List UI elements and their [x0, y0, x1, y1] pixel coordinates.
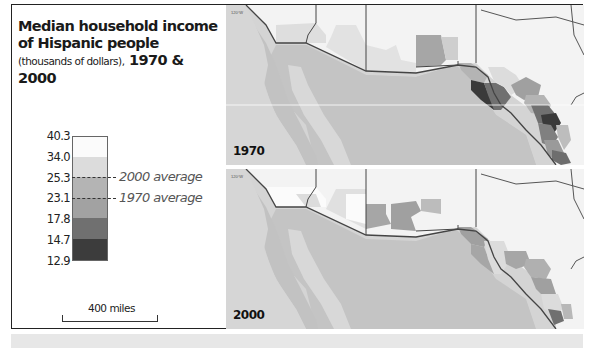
map-1970: 120°W 1970 — [226, 5, 584, 165]
map-1970-graphic: 120°W — [226, 5, 584, 165]
legend-panel: Median household income of Hispanic peop… — [12, 5, 226, 328]
legend-swatch-5 — [73, 218, 107, 239]
average-label-1970: 1970 average — [119, 190, 202, 205]
map-2000-graphic: 120°W — [226, 169, 584, 329]
legend-tick: 23.1 — [47, 191, 70, 205]
scale-bar — [62, 315, 158, 322]
legend-tick: 40.3 — [47, 129, 70, 143]
legend-swatch-3 — [73, 177, 107, 198]
legend-tick: 12.9 — [47, 254, 70, 268]
meridian-label: 120°W — [231, 174, 243, 179]
title-subtitle: (thousands of dollars), — [18, 55, 125, 67]
figure-title: Median household income of Hispanic peop… — [18, 18, 223, 87]
map-year-label: 2000 — [233, 308, 264, 322]
legend-tick: 14.7 — [47, 233, 70, 247]
average-line-1970 — [72, 198, 116, 199]
legend-swatch-6 — [73, 239, 107, 260]
meridian-label: 120°W — [231, 10, 243, 15]
legend-swatch-2 — [73, 157, 107, 177]
title-line-1: Median household income — [18, 18, 223, 35]
average-label-2000: 2000 average — [119, 169, 202, 184]
legend-tick: 17.8 — [47, 212, 70, 226]
title-line-2: of Hispanic people — [18, 35, 159, 51]
legend-swatch-4 — [73, 198, 107, 218]
average-line-2000 — [72, 177, 116, 178]
map-2000: 120°W 2000 — [226, 169, 584, 329]
bottom-band — [11, 334, 583, 348]
scale-bar-label: 400 miles — [88, 302, 135, 314]
legend-tick: 34.0 — [47, 150, 70, 164]
legend-tick: 25.3 — [47, 171, 70, 185]
map-year-label: 1970 — [233, 144, 264, 158]
legend-swatch-1 — [73, 137, 107, 157]
map-figure: Median household income of Hispanic peop… — [11, 4, 583, 329]
